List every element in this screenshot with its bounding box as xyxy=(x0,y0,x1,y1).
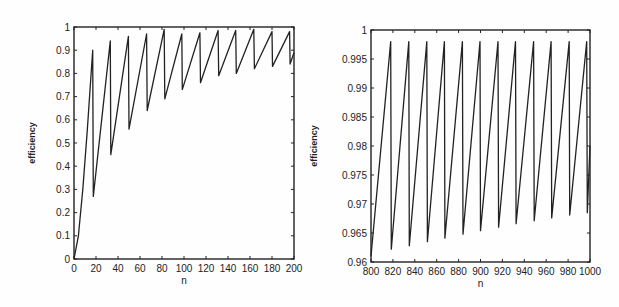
x-tick-label: 60 xyxy=(134,263,146,274)
x-tick-label: 100 xyxy=(176,263,193,274)
x-tick-label: 180 xyxy=(264,263,281,274)
x-tick-label: 860 xyxy=(428,266,445,277)
x-tick-label: 920 xyxy=(494,266,511,277)
x-tick-label: 40 xyxy=(112,263,124,274)
x-tick-label: 900 xyxy=(472,266,489,277)
y-tick-label: 0.4 xyxy=(56,161,70,172)
y-tick-label: 0.975 xyxy=(342,170,367,181)
efficiency-line xyxy=(371,42,590,257)
efficiency-plot-n-800-1000: 80082084086088090092094096098010000.960.… xyxy=(309,25,602,290)
x-tick-label: 160 xyxy=(242,263,259,274)
x-tick-label: 960 xyxy=(538,266,555,277)
x-tick-label: 120 xyxy=(198,263,215,274)
x-tick-label: 840 xyxy=(406,266,423,277)
x-tick-label: 200 xyxy=(286,263,303,274)
x-tick-label: 880 xyxy=(450,266,467,277)
x-tick-label: 140 xyxy=(220,263,237,274)
x-tick-label: 20 xyxy=(90,263,102,274)
y-tick-label: 1 xyxy=(64,22,70,33)
y-tick-label: 0.995 xyxy=(342,54,367,65)
y-tick-label: 1 xyxy=(361,25,367,36)
x-axis-label: n xyxy=(478,278,484,289)
y-tick-label: 0.97 xyxy=(348,199,368,210)
plot-frame xyxy=(74,27,294,259)
y-tick-label: 0.96 xyxy=(348,257,368,268)
y-tick-label: 0.8 xyxy=(56,68,70,79)
efficiency-line xyxy=(74,29,294,259)
x-tick-label: 1000 xyxy=(579,266,602,277)
y-tick-label: 0 xyxy=(64,254,70,265)
y-tick-label: 0.2 xyxy=(56,207,70,218)
efficiency-charts: 02040608010012014016018020000.10.20.30.4… xyxy=(0,0,619,307)
y-tick-label: 0.9 xyxy=(56,45,70,56)
efficiency-plot-n-0-200: 02040608010012014016018020000.10.20.30.4… xyxy=(27,22,303,287)
x-tick-label: 0 xyxy=(71,263,77,274)
x-tick-label: 80 xyxy=(156,263,168,274)
y-tick-label: 0.1 xyxy=(56,230,70,241)
y-tick-label: 0.5 xyxy=(56,138,70,149)
x-axis-label: n xyxy=(181,275,187,286)
y-tick-label: 0.3 xyxy=(56,184,70,195)
y-tick-label: 0.6 xyxy=(56,114,70,125)
x-tick-label: 800 xyxy=(363,266,380,277)
y-tick-label: 0.985 xyxy=(342,112,367,123)
y-tick-label: 0.965 xyxy=(342,228,367,239)
y-tick-label: 0.98 xyxy=(348,141,368,152)
y-axis-label: efficiency xyxy=(27,122,37,164)
y-tick-label: 0.99 xyxy=(348,83,368,94)
y-axis-label: efficiency xyxy=(309,125,319,167)
x-tick-label: 980 xyxy=(560,266,577,277)
x-tick-label: 820 xyxy=(385,266,402,277)
y-tick-label: 0.7 xyxy=(56,91,70,102)
x-tick-label: 940 xyxy=(516,266,533,277)
